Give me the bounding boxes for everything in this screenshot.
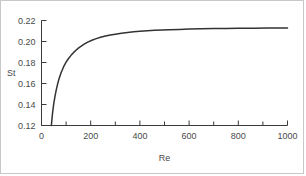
y-axis-title: St [7,68,16,78]
data-line [51,28,287,126]
chart-figure: 0.120.140.160.180.200.22 020040060080010… [0,0,304,174]
x-axis-tick-label: 600 [164,131,214,141]
y-axis-tick-label: 0.22 [18,16,36,26]
y-axis-tick-label: 0.20 [18,37,36,47]
data-series-group [51,28,287,126]
x-axis-tick-label: 200 [66,131,116,141]
plot-area [1,1,304,174]
y-axis-tick-label: 0.18 [18,58,36,68]
axes-group [42,21,288,126]
x-axis-tick-label: 0 [17,131,67,141]
x-axis-tick-label: 400 [115,131,165,141]
x-axis-tick-label: 800 [213,131,263,141]
x-axis-tick-label: 1000 [263,131,305,141]
y-axis-tick-label: 0.16 [18,79,36,89]
y-axis-tick-label: 0.12 [18,121,36,131]
x-axis-title: Re [140,153,190,163]
y-axis-tick-label: 0.14 [18,100,36,110]
